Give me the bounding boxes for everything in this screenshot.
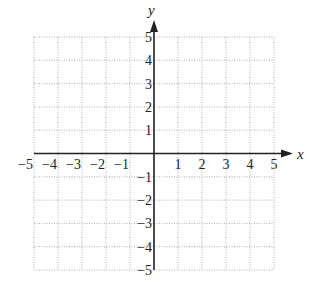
y-tick-label: −2 bbox=[137, 193, 152, 208]
y-tick-label: −3 bbox=[137, 216, 152, 231]
y-tick-label: 1 bbox=[145, 123, 152, 138]
x-axis-arrow-icon bbox=[281, 150, 293, 158]
y-tick-label: 4 bbox=[145, 53, 152, 68]
x-tick-label: −5 bbox=[18, 157, 33, 172]
x-tick-label: −3 bbox=[66, 157, 81, 172]
x-tick-label: −1 bbox=[114, 157, 129, 172]
y-tick-label: 3 bbox=[145, 77, 152, 92]
x-tick-label: 1 bbox=[175, 157, 182, 172]
y-axis-label: y bbox=[146, 2, 155, 18]
coordinate-plane: −5−4−3−2−112345 −5−4−3−2−112345 x y bbox=[0, 0, 315, 285]
y-tick-label: −1 bbox=[137, 170, 152, 185]
y-tick-label: −5 bbox=[137, 263, 152, 278]
x-tick-label: −4 bbox=[42, 157, 57, 172]
y-tick-label: 5 bbox=[145, 30, 152, 45]
y-tick-label: −4 bbox=[137, 240, 152, 255]
x-tick-label: 3 bbox=[223, 157, 230, 172]
x-axis-label: x bbox=[296, 146, 304, 162]
x-tick-label: 5 bbox=[271, 157, 278, 172]
x-tick-label: 4 bbox=[247, 157, 254, 172]
x-tick-label: −2 bbox=[90, 157, 105, 172]
y-tick-label: 2 bbox=[145, 100, 152, 115]
axes bbox=[34, 20, 293, 270]
x-tick-label: 2 bbox=[199, 157, 206, 172]
